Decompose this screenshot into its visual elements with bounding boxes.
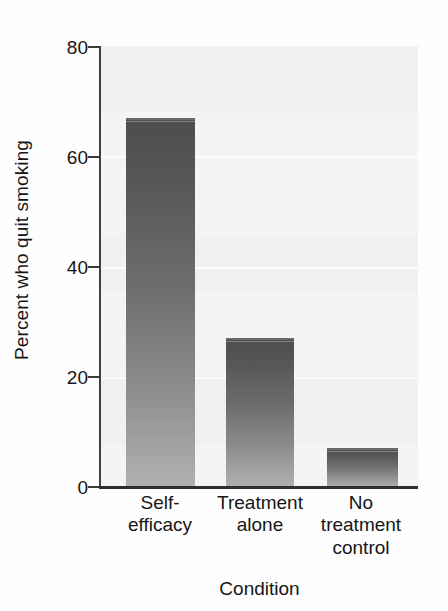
y-tick-label: 80 [48, 38, 88, 57]
x-axis-title: Condition [101, 578, 418, 600]
x-tick-label-no-treatment-control: No treatment control [304, 492, 418, 559]
y-axis-tick-labels: 0 20 40 60 80 [44, 0, 88, 611]
x-tick-label-line: Treatment [201, 492, 319, 514]
y-tick-label: 0 [48, 478, 88, 497]
figure: Percent who quit smoking 0 20 40 60 80 [0, 0, 448, 611]
bar-highlight [327, 451, 398, 452]
x-tick-label-line: alone [201, 514, 319, 536]
background-band [101, 46, 418, 112]
bar-highlight [126, 121, 195, 122]
x-tick-label-line: No [304, 492, 418, 514]
plot-area [101, 46, 418, 487]
bar-treatment-alone [226, 338, 294, 487]
y-axis-title: Percent who quit smoking [0, 0, 44, 500]
bar-self-efficacy [126, 118, 195, 487]
x-tick-label-treatment-alone: Treatment alone [201, 492, 319, 537]
y-tick-label: 40 [48, 258, 88, 277]
x-axis-tick-labels: Self- efficacy Treatment alone No treatm… [101, 492, 418, 572]
bar-no-treatment-control [327, 448, 398, 487]
x-tick-label-line: treatment [304, 514, 418, 536]
bar-highlight [226, 341, 294, 342]
y-tick-label: 60 [48, 148, 88, 167]
x-tick-label-line: control [304, 537, 418, 559]
y-axis-title-text: Percent who quit smoking [11, 140, 33, 360]
y-tick-label: 20 [48, 368, 88, 387]
x-axis-spine [99, 486, 418, 489]
